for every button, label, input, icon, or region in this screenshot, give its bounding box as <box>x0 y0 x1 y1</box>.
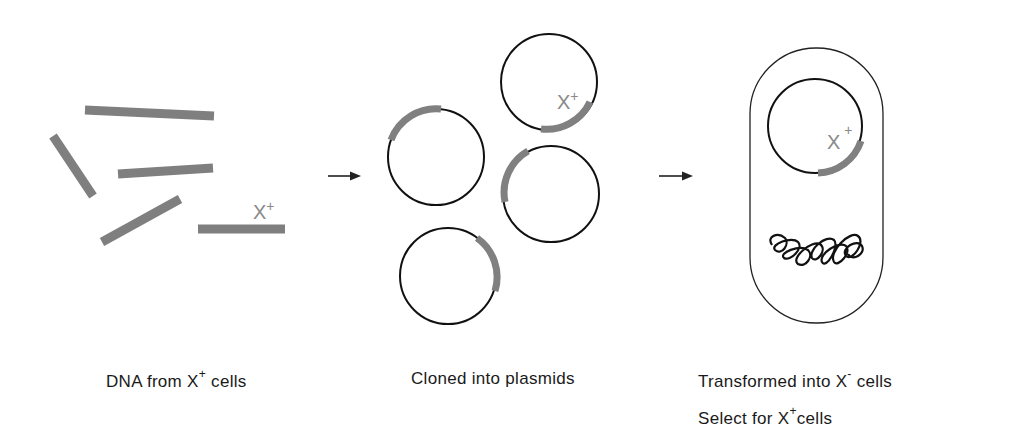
dna-fragment <box>118 168 213 174</box>
arrow-icon <box>328 172 361 181</box>
chromosome <box>770 235 862 265</box>
arrow-icon <box>659 172 693 181</box>
cell-plasmid-label: X+ <box>827 128 849 154</box>
insert <box>504 151 528 202</box>
dna-fragment <box>85 110 214 116</box>
insert <box>391 109 441 140</box>
plasmids <box>388 34 599 324</box>
dna-fragment <box>53 136 93 196</box>
cell-membrane <box>750 48 883 323</box>
plasmid-label: X+ <box>557 88 579 114</box>
caption-transformed: Transformed into X- cells <box>698 369 892 392</box>
fragment-label: X+ <box>253 198 275 224</box>
dna-fragments <box>53 110 285 242</box>
bacterial-cell <box>750 48 883 323</box>
dna-fragment <box>102 199 180 242</box>
caption-dna: DNA from X+ cells <box>106 369 247 392</box>
insert <box>477 238 497 291</box>
caption-plasmids: Cloned into plasmids <box>411 369 575 389</box>
caption-select: Select for X+cells <box>698 406 832 429</box>
